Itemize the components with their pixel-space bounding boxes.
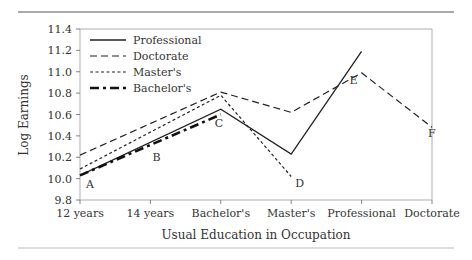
x-tick-label: Master's <box>267 207 316 220</box>
y-tick-label: 10.0 <box>48 173 73 186</box>
y-tick-label: 11.4 <box>48 23 73 36</box>
x-tick-label: Doctorate <box>404 207 459 220</box>
legend: ProfessionalDoctorateMaster'sBachelor's <box>90 34 202 95</box>
x-tick-label: 12 years <box>56 207 104 220</box>
point-label-b: B <box>152 151 160 164</box>
line-chart: 9.810.010.210.410.610.811.011.211.4 12 y… <box>0 0 472 260</box>
y-tick-label: 10.4 <box>48 130 73 143</box>
x-axis: 12 years14 yearsBachelor'sMaster'sProfes… <box>56 200 460 220</box>
legend-label: Master's <box>133 66 182 79</box>
y-tick-label: 9.8 <box>55 194 73 207</box>
legend-label: Professional <box>133 34 202 47</box>
x-tick-label: 14 years <box>127 207 175 220</box>
y-tick-label: 10.6 <box>48 109 73 122</box>
x-tick-label: Professional <box>327 207 396 220</box>
y-tick-label: 11.0 <box>48 66 73 79</box>
point-label-c: C <box>215 117 223 130</box>
y-axis: 9.810.010.210.410.610.811.011.211.4 <box>48 23 81 207</box>
point-label-a: A <box>85 178 95 191</box>
x-tick-label: Bachelor's <box>192 207 251 220</box>
legend-label: Bachelor's <box>133 82 192 95</box>
x-axis-title: Usual Education in Occupation <box>161 228 350 242</box>
y-tick-label: 10.8 <box>48 87 73 100</box>
y-tick-label: 10.2 <box>48 151 73 164</box>
point-label-d: D <box>295 177 304 190</box>
point-label-e: E <box>350 74 358 87</box>
legend-label: Doctorate <box>133 50 188 63</box>
y-tick-label: 11.2 <box>48 44 73 57</box>
point-label-f: F <box>428 127 436 140</box>
y-axis-title: Log Earnings <box>17 74 31 155</box>
